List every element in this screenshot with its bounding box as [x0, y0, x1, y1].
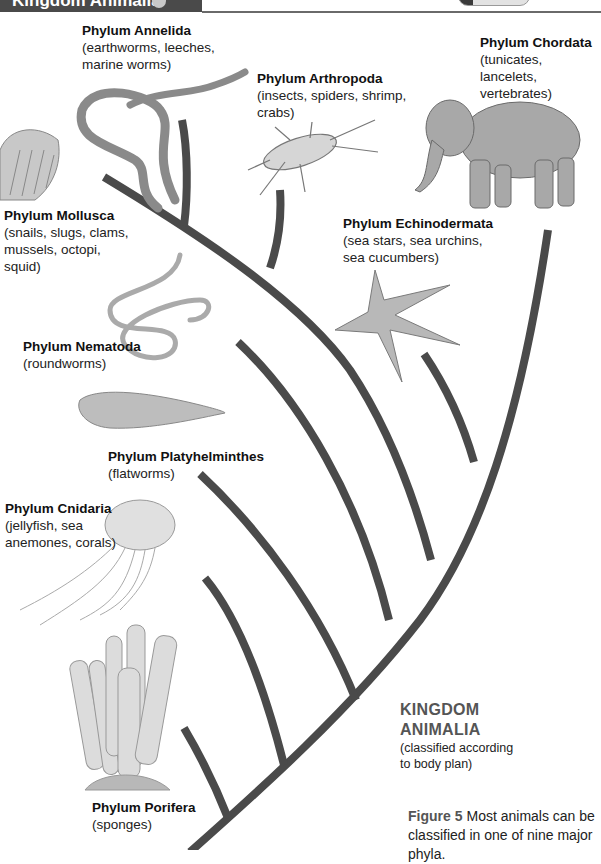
tube-sponge-illustration: [69, 625, 179, 790]
branch-echinodermata: [424, 354, 474, 462]
phylum-label-nematoda: Phylum Nematoda (roundworms): [23, 338, 141, 372]
flatworm-illustration: [79, 392, 225, 428]
branch-platyhelminthes: [200, 474, 356, 700]
phylum-label-chordata: Phylum Chordata (tunicates, lancelets, v…: [480, 34, 601, 102]
phylum-label-porifera: Phylum Porifera (sponges): [92, 799, 196, 833]
branch-cnidaria: [205, 578, 284, 765]
cockroach-illustration: [248, 120, 378, 195]
phylum-label-annelida: Phylum Annelida (earthworms, leeches, ma…: [82, 22, 215, 73]
phylum-label-mollusca: Phylum Mollusca (snails, slugs, clams, m…: [4, 207, 129, 275]
kingdom-label: KINGDOM ANIMALIA (classified according t…: [400, 700, 513, 772]
phylum-label-echinodermata: Phylum Echinodermata (sea stars, sea urc…: [343, 215, 493, 266]
branch-arthropoda: [270, 190, 281, 268]
earthworm-illustration: [81, 72, 245, 208]
phylum-label-platyhelminthes: Phylum Platyhelminthes (flatworms): [108, 448, 264, 482]
elephant-illustration: [415, 100, 580, 208]
branch-annelida: [182, 120, 187, 226]
scallop-shell-illustration: [0, 130, 59, 200]
sea-star-illustration: [335, 270, 460, 382]
phylum-label-arthropoda: Phylum Arthropoda (insects, spiders, shr…: [257, 70, 406, 121]
figure-caption: Figure 5Most animals can be classified i…: [408, 807, 601, 864]
figure-number: Figure 5: [408, 808, 462, 824]
phylum-label-cnidaria: Phylum Cnidaria (jellyfish, sea anemones…: [5, 500, 116, 551]
